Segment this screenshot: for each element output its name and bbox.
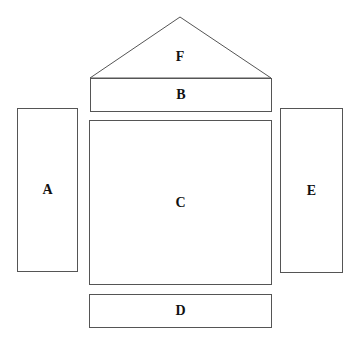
region-b-label: B [176, 87, 185, 103]
region-a: A [17, 108, 78, 272]
region-f-label: F [176, 49, 185, 65]
region-e: E [280, 108, 343, 273]
region-c-label: C [175, 195, 185, 211]
region-a-label: A [42, 182, 52, 198]
region-b: B [90, 78, 272, 112]
region-d-label: D [175, 303, 185, 319]
region-e-label: E [307, 183, 316, 199]
region-d: D [89, 294, 272, 328]
region-c: C [89, 120, 272, 285]
